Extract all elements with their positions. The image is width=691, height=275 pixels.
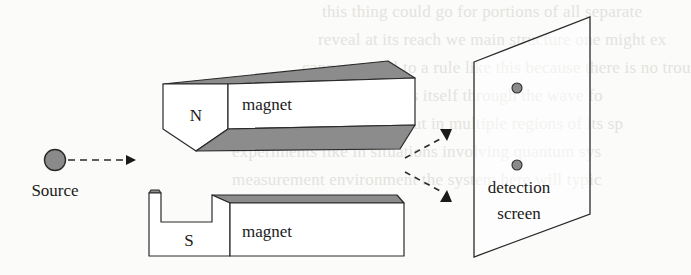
screen-dot-upper <box>512 83 522 93</box>
screen-label-line2: screen <box>497 204 541 223</box>
screen-label-line1: detection <box>488 178 551 197</box>
arrowhead-up-icon <box>440 129 452 141</box>
deflected-beam-up <box>405 138 442 158</box>
source-label: Source <box>31 181 78 200</box>
source-circle <box>45 150 66 171</box>
n-pole-label: N <box>190 106 202 125</box>
screen-dot-lower <box>512 160 522 170</box>
bottom-magnet-label: magnet <box>242 222 292 241</box>
source-arrowhead-icon <box>126 155 136 165</box>
bottom-magnet-top-face <box>212 195 404 203</box>
top-magnet-bottom-face <box>196 125 415 151</box>
arrowhead-down-icon <box>440 190 452 202</box>
top-magnet-label: magnet <box>242 95 292 114</box>
s-pole-label: S <box>184 231 193 250</box>
deflected-beam-down <box>405 172 442 192</box>
